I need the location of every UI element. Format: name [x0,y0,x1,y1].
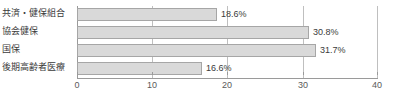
bar-chart: 共済・健保組合 協会健保 国保 後期高齢者医療 18.6% 30.8% 31.7… [0,0,395,101]
tick-label-10: 10 [147,80,157,90]
tick-label-30: 30 [298,80,308,90]
category-label-0: 共済・健保組合 [2,8,76,18]
value-axis-ticks: 0 10 20 30 40 [77,0,378,101]
category-label-1: 協会健保 [2,26,76,36]
tick-label-20: 20 [222,80,232,90]
category-label-2: 国保 [2,44,76,54]
tick-label-40: 40 [372,80,382,90]
tick-label-0: 0 [74,80,79,90]
category-label-3: 後期高齢者医療 [2,62,76,72]
category-axis-labels: 共済・健保組合 協会健保 国保 後期高齢者医療 [2,0,76,78]
